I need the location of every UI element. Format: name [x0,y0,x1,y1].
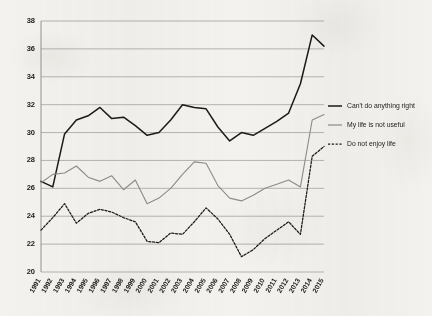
legend-label-0: Can't do anything right [347,102,415,110]
series-line-0 [41,35,324,187]
x-axis-tick-label: 2015 [311,277,325,294]
y-axis-tick-label: 24 [27,211,36,220]
line-chart: 20222426283032343638 1991199219931994199… [0,0,432,316]
y-axis-tick-label: 34 [27,72,36,81]
y-axis-tick-label: 26 [27,183,35,192]
x-axis: 1991199219931994199519961997199819992000… [28,277,325,294]
y-axis-tick-label: 32 [27,100,35,109]
chart-container: 20222426283032343638 1991199219931994199… [0,0,432,316]
series-line-2 [41,147,324,257]
series-line-1 [41,114,324,203]
legend-label-1: My life is not useful [347,121,405,129]
y-axis-tick-label: 36 [27,44,35,53]
y-axis-tick-label: 38 [27,16,35,25]
y-axis-tick-label: 30 [27,128,35,137]
x-axis-tick-label: 2010 [252,277,266,294]
y-axis-tick-label: 22 [27,239,35,248]
y-axis-tick-label: 28 [27,155,35,164]
y-axis-tick-label: 20 [27,267,35,276]
data-series [41,35,324,257]
chart-legend: Can't do anything rightMy life is not us… [328,102,415,148]
y-axis: 20222426283032343638 [27,16,41,276]
legend-label-2: Do not enjoy life [347,140,396,148]
